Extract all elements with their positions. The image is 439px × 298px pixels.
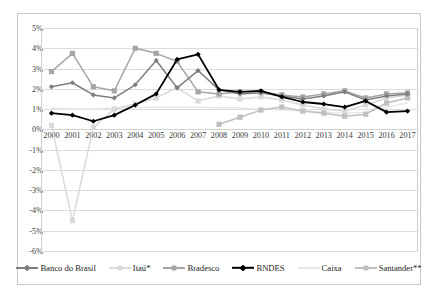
data-point-marker xyxy=(70,51,75,56)
legend-swatch-diamond-icon xyxy=(232,264,254,273)
legend-label: Santander** xyxy=(379,263,422,273)
legend-label: Caixa xyxy=(322,263,342,273)
legend-swatch-square-icon xyxy=(355,264,377,273)
data-point-marker xyxy=(112,88,117,93)
data-point-marker xyxy=(258,108,263,113)
legend-swatch-square-icon xyxy=(109,264,131,273)
data-point-marker xyxy=(384,100,389,105)
data-point-marker xyxy=(237,96,242,101)
legend-label: Itaú* xyxy=(133,263,151,273)
data-point-marker xyxy=(49,69,54,74)
data-point-marker xyxy=(237,115,242,120)
legend-item[interactable]: Santander** xyxy=(355,263,422,273)
data-point-marker xyxy=(133,46,138,51)
legend-item[interactable]: BNDES xyxy=(232,263,284,273)
data-point-marker xyxy=(49,84,54,89)
legend-item[interactable]: Bradesco xyxy=(163,263,219,273)
data-point-marker xyxy=(405,109,410,114)
series-layer xyxy=(41,28,418,251)
legend-item[interactable]: Itaú* xyxy=(109,263,151,273)
data-point-marker xyxy=(70,113,75,118)
legend-label: BNDES xyxy=(256,263,284,273)
data-point-marker xyxy=(49,111,54,116)
data-point-marker xyxy=(195,98,200,103)
series-line xyxy=(51,54,407,121)
chart-screenshot: 5%4%3%2%1%0%-1%-2%-3%-4%-5%-6% 200020012… xyxy=(0,0,439,298)
plot-area xyxy=(41,28,418,251)
data-point-marker xyxy=(91,119,96,124)
data-point-marker xyxy=(49,123,54,128)
series-ita xyxy=(49,85,410,223)
legend-label: Bradesco xyxy=(187,263,219,273)
data-point-marker xyxy=(154,51,159,56)
data-point-marker xyxy=(321,101,326,106)
data-point-marker xyxy=(112,106,117,111)
data-point-marker xyxy=(91,125,96,130)
data-point-marker xyxy=(195,89,200,94)
legend-item[interactable]: Banco do Brasil xyxy=(16,263,95,273)
data-point-marker xyxy=(342,114,347,119)
series-banco-do-brasil xyxy=(49,58,410,103)
legend-swatch-none-icon xyxy=(298,264,320,273)
data-point-marker xyxy=(363,112,368,117)
legend-swatch-diamond-icon xyxy=(16,264,38,273)
data-point-marker xyxy=(70,218,75,223)
legend-swatch-square-icon xyxy=(163,264,185,273)
data-point-marker xyxy=(279,104,284,109)
legend-label: Banco do Brasil xyxy=(40,263,95,273)
y-axis-labels: 5%4%3%2%1%0%-1%-2%-3%-4%-5%-6% xyxy=(17,28,43,251)
data-point-marker xyxy=(91,84,96,89)
chart-legend: Banco do BrasilItaú*BradescoBNDESCaixaSa… xyxy=(17,259,421,277)
data-point-marker xyxy=(216,122,221,127)
legend-item[interactable]: Caixa xyxy=(298,263,342,273)
data-point-marker xyxy=(321,111,326,116)
data-point-marker xyxy=(300,109,305,114)
gridline xyxy=(41,251,418,252)
